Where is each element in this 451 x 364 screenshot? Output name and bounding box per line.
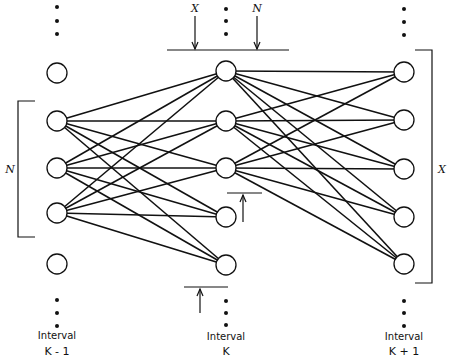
- state-node-circle: [394, 207, 414, 227]
- ellipsis-dot: [55, 19, 59, 23]
- edge-line: [226, 120, 404, 168]
- top-marker-label-n: N: [251, 2, 262, 15]
- right-bracket: [415, 50, 432, 283]
- edge-line: [226, 71, 404, 72]
- edge-line: [57, 71, 226, 168]
- ellipsis-dot: [402, 33, 406, 37]
- edge-line: [226, 168, 404, 264]
- state-node-circle: [47, 111, 67, 131]
- ellipsis-dot: [402, 311, 406, 315]
- interval-k-plus-1-label: Interval: [385, 331, 423, 342]
- edge-line: [226, 168, 404, 169]
- edge-line: [226, 72, 404, 121]
- ellipsis-dot: [224, 7, 228, 11]
- state-node-circle: [394, 62, 414, 82]
- ellipsis-dot: [55, 298, 59, 302]
- left-bracket-label: N: [4, 163, 15, 176]
- ellipsis-dot: [402, 299, 406, 303]
- interval-k-plus-1-index: K + 1: [389, 345, 419, 358]
- ellipsis-dot: [224, 299, 228, 303]
- edge-line: [226, 121, 404, 169]
- state-node-circle: [394, 110, 414, 130]
- state-node-circle: [394, 254, 414, 274]
- state-node-circle: [216, 158, 236, 178]
- ellipsis-dot: [224, 19, 228, 23]
- right-bracket-label: X: [437, 163, 447, 176]
- ellipsis-dot: [224, 32, 228, 36]
- state-node-circle: [47, 254, 67, 274]
- top-marker-label-x: X: [190, 2, 200, 15]
- interval-k-label: Interval: [207, 331, 245, 342]
- ellipsis-dot: [224, 311, 228, 315]
- ellipsis-dot: [55, 32, 59, 36]
- state-node-circle: [47, 63, 67, 83]
- interval-k-minus-1-label: Interval: [38, 330, 76, 341]
- ellipsis-dot: [55, 5, 59, 9]
- ellipsis-dot: [402, 324, 406, 328]
- trellis-diagram: X N N X Interval K - 1 Interval K Interv…: [0, 0, 451, 364]
- edge-line: [57, 213, 226, 265]
- edge-line: [57, 71, 226, 121]
- state-node-circle: [47, 203, 67, 223]
- ellipsis-dot: [224, 323, 228, 327]
- state-node-circle: [216, 207, 236, 227]
- left-bracket: [18, 101, 35, 237]
- ellipsis-dot: [55, 324, 59, 328]
- state-node-circle: [216, 61, 236, 81]
- interval-k-minus-1-index: K - 1: [44, 345, 69, 358]
- labels: X N N X Interval K - 1 Interval K Interv…: [4, 2, 447, 358]
- state-node-circle: [47, 158, 67, 178]
- state-node-circle: [216, 255, 236, 275]
- interval-k-index: K: [222, 345, 230, 358]
- ellipsis-dot: [55, 311, 59, 315]
- ellipsis-dot: [402, 20, 406, 24]
- state-node-circle: [394, 159, 414, 179]
- ellipsis-dot: [402, 7, 406, 11]
- edge-line: [226, 71, 404, 120]
- state-node-circle: [216, 111, 236, 131]
